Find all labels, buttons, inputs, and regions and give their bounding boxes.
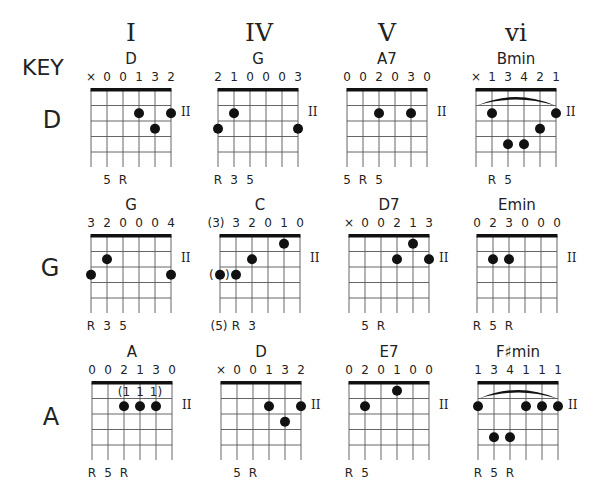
- finger-number: 0: [421, 70, 433, 84]
- finger-number: 0: [423, 363, 435, 377]
- finger-number: 3: [503, 216, 515, 230]
- column-header-I: I: [91, 18, 171, 47]
- finger-number: 1: [391, 363, 403, 377]
- finger-number: 0: [375, 216, 387, 230]
- fret-marker-II: II: [568, 398, 577, 412]
- finger-number: 1: [228, 70, 240, 84]
- finger-number: ×: [343, 216, 355, 230]
- finger-dot: [119, 401, 129, 411]
- finger-number: 3: [85, 216, 97, 230]
- finger-number: 3: [502, 70, 514, 84]
- finger-number: 0: [407, 363, 419, 377]
- finger-dot: [504, 254, 514, 264]
- chord-name: A7: [347, 50, 427, 68]
- finger-number: 0: [276, 70, 288, 84]
- finger-dot: [519, 139, 529, 149]
- finger-dot: [489, 432, 499, 442]
- finger-number: 1: [536, 363, 548, 377]
- finger-number: 0: [551, 216, 563, 230]
- finger-number: 1: [550, 70, 562, 84]
- finger-number: 1: [552, 363, 564, 377]
- row-header-G: G: [15, 254, 85, 282]
- chord-diagram-g: G320004IIR35: [91, 236, 201, 346]
- row-header-A: A: [16, 403, 86, 431]
- svg-text:): ): [225, 268, 230, 282]
- finger-number: 0: [244, 70, 256, 84]
- chord-diagram-e7: E7020100IIR5: [349, 383, 459, 493]
- finger-dot: [535, 124, 545, 134]
- finger-dot: [229, 108, 239, 118]
- chord-name: Emin: [477, 196, 557, 214]
- finger-number: ×: [470, 70, 482, 84]
- finger-number: 2: [534, 70, 546, 84]
- finger-dot: [279, 239, 289, 249]
- finger-number: (3): [204, 216, 228, 230]
- finger-number: 1: [407, 216, 419, 230]
- svg-text:(: (: [209, 268, 214, 282]
- finger-number: 2: [101, 216, 113, 230]
- finger-number: 0: [247, 363, 259, 377]
- interval-label: R: [113, 173, 133, 187]
- finger-number: 2: [118, 363, 130, 377]
- alt-finger-number: (1: [118, 385, 130, 399]
- finger-dot: [293, 124, 303, 134]
- finger-number: 0: [294, 216, 306, 230]
- chord-diagram-d: D×00132II5R: [221, 383, 331, 493]
- finger-number: 3: [230, 216, 242, 230]
- interval-label: R: [114, 466, 134, 480]
- finger-number: 3: [423, 216, 435, 230]
- finger-number: 3: [150, 363, 162, 377]
- finger-dot: [247, 254, 257, 264]
- fret-marker-II: II: [181, 105, 190, 119]
- row-header-D: D: [17, 106, 87, 134]
- finger-dot: [488, 254, 498, 264]
- finger-dot: [537, 401, 547, 411]
- fret-marker-II: II: [182, 398, 191, 412]
- finger-number: 0: [343, 363, 355, 377]
- finger-number: 0: [133, 216, 145, 230]
- chord-name: D: [91, 50, 171, 68]
- finger-dot: [166, 270, 176, 280]
- fretboard: [347, 90, 447, 180]
- finger-number: 0: [359, 216, 371, 230]
- column-header-V: V: [347, 18, 427, 47]
- column-header-IV: IV: [219, 18, 299, 47]
- chord-diagram-g: G210003IIR35: [218, 90, 328, 200]
- fretboard: [349, 383, 449, 473]
- finger-dot: [360, 401, 370, 411]
- fretboard: [221, 383, 321, 473]
- fret-marker-II: II: [308, 105, 317, 119]
- interval-label: 5: [113, 319, 133, 333]
- finger-number: 1: [134, 363, 146, 377]
- interval-label: R: [499, 319, 519, 333]
- finger-dot: [553, 401, 563, 411]
- fret-marker-II: II: [439, 251, 448, 265]
- finger-number: 4: [165, 216, 177, 230]
- chord-name: G: [91, 196, 171, 214]
- finger-number: 0: [102, 363, 114, 377]
- finger-number: 0: [471, 216, 483, 230]
- fret-marker-II: II: [310, 251, 319, 265]
- chord-name: A: [92, 343, 172, 361]
- finger-number: 0: [166, 363, 178, 377]
- finger-number: 0: [101, 70, 113, 84]
- finger-dot: [392, 254, 402, 264]
- interval-label: 3: [242, 319, 262, 333]
- finger-number: 3: [488, 363, 500, 377]
- finger-dot: [521, 401, 531, 411]
- finger-dot: [408, 239, 418, 249]
- finger-number: 4: [518, 70, 530, 84]
- finger-number: 1: [486, 70, 498, 84]
- finger-number: 1: [133, 70, 145, 84]
- finger-dot: [280, 417, 290, 427]
- finger-number: 0: [375, 363, 387, 377]
- interval-label: R: [243, 466, 263, 480]
- column-header-vi: vi: [476, 18, 556, 47]
- finger-number: 0: [231, 363, 243, 377]
- fret-marker-II: II: [437, 105, 446, 119]
- finger-dot: [374, 108, 384, 118]
- fretboard: [476, 90, 576, 180]
- chord-diagram-emin: Emin023000IIR5R: [477, 236, 587, 346]
- alt-finger-number: 1): [150, 385, 162, 399]
- fretboard: [218, 90, 318, 180]
